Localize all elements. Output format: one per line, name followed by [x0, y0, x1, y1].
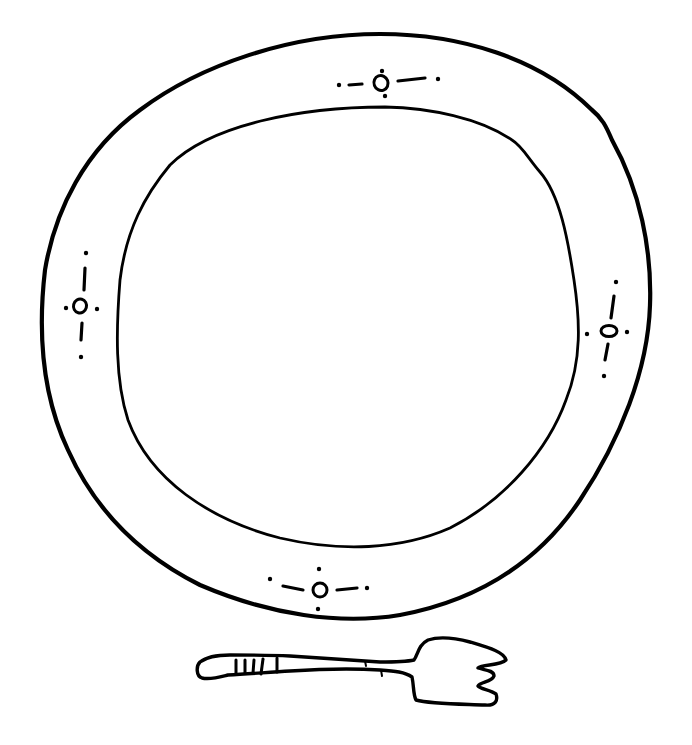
fork-band [261, 659, 263, 674]
plate-and-fork-drawing [0, 0, 692, 745]
fork-band [253, 660, 254, 673]
ornament-left [64, 251, 99, 359]
plate-outer-rim [42, 34, 650, 619]
ornament-top [337, 69, 440, 98]
fork [197, 638, 506, 705]
ornament-right [585, 280, 629, 378]
plate-inner-well [117, 107, 578, 547]
ornament-bottom [268, 567, 369, 611]
